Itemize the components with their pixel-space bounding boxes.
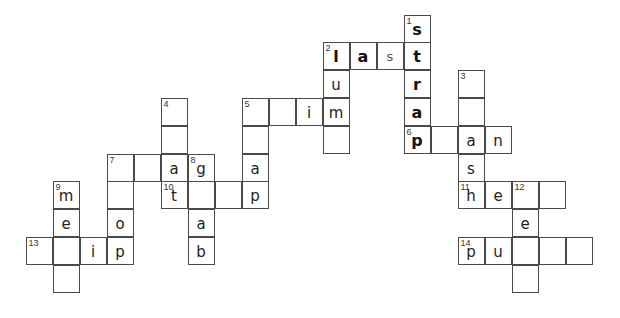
cell-letter: e: [54, 214, 79, 234]
crossword-cell[interactable]: [269, 98, 296, 126]
crossword-cell[interactable]: [53, 265, 80, 293]
crossword-cell[interactable]: a: [404, 98, 431, 126]
cell-letter: i: [81, 242, 106, 262]
cell-letter: b: [189, 242, 214, 262]
crossword-cell[interactable]: r: [404, 70, 431, 98]
crossword-cell[interactable]: 7: [107, 154, 134, 182]
clue-number: 13: [29, 238, 39, 248]
crossword-cell[interactable]: [161, 126, 188, 154]
clue-number: 7: [110, 155, 115, 165]
cell-letter: e: [486, 186, 511, 206]
cell-letter: l: [324, 47, 349, 67]
cell-letter: u: [324, 75, 349, 95]
crossword-cell[interactable]: 13: [26, 237, 53, 265]
crossword-cell[interactable]: a: [161, 154, 188, 182]
crossword-cell[interactable]: [566, 237, 593, 265]
crossword-cell[interactable]: i: [296, 98, 323, 126]
crossword-cell[interactable]: a: [350, 42, 377, 70]
crossword-cell[interactable]: e: [485, 181, 512, 209]
crossword-cell[interactable]: o: [107, 209, 134, 237]
cell-letter: p: [459, 242, 484, 262]
crossword-cell[interactable]: e: [512, 209, 539, 237]
cell-letter: s: [459, 159, 484, 179]
crossword-cell[interactable]: 2l: [323, 42, 350, 70]
crossword-cell[interactable]: 9m: [53, 181, 80, 209]
crossword-cell[interactable]: 5: [242, 98, 269, 126]
clue-number: 12: [515, 182, 525, 192]
cell-letter: a: [351, 47, 376, 67]
crossword-grid: 1s2lastur345ima6pan7a8gas9m10tp11he12eoa…: [0, 0, 620, 318]
crossword-cell[interactable]: [458, 98, 485, 126]
cell-letter: h: [459, 186, 484, 206]
cell-letter: a: [459, 131, 484, 151]
cell-letter: s: [378, 47, 403, 67]
crossword-cell[interactable]: m: [323, 98, 350, 126]
cell-letter: p: [405, 131, 430, 151]
crossword-cell[interactable]: [53, 237, 80, 265]
cell-letter: m: [54, 186, 79, 206]
cell-letter: r: [405, 75, 430, 95]
cell-letter: t: [162, 186, 187, 206]
cell-letter: a: [162, 159, 187, 179]
cell-letter: g: [189, 159, 214, 179]
crossword-cell[interactable]: a: [458, 126, 485, 154]
crossword-cell[interactable]: [188, 181, 215, 209]
crossword-cell[interactable]: [539, 237, 566, 265]
crossword-cell[interactable]: 11h: [458, 181, 485, 209]
cell-letter: p: [108, 242, 133, 262]
clue-number: 4: [164, 99, 169, 109]
cell-letter: u: [486, 242, 511, 262]
crossword-cell[interactable]: [512, 237, 539, 265]
crossword-cell[interactable]: [431, 126, 458, 154]
crossword-cell[interactable]: s: [377, 42, 404, 70]
cell-letter: i: [297, 103, 322, 123]
cell-letter: s: [405, 20, 430, 40]
crossword-cell[interactable]: 1s: [404, 15, 431, 43]
cell-letter: a: [189, 214, 214, 234]
crossword-cell[interactable]: a: [242, 154, 269, 182]
crossword-cell[interactable]: [215, 181, 242, 209]
crossword-cell[interactable]: [134, 154, 161, 182]
crossword-cell[interactable]: [107, 181, 134, 209]
cell-letter: m: [324, 103, 349, 123]
crossword-cell[interactable]: b: [188, 237, 215, 265]
clue-number: 5: [245, 99, 250, 109]
crossword-cell[interactable]: [539, 181, 566, 209]
crossword-cell[interactable]: 3: [458, 70, 485, 98]
crossword-cell[interactable]: n: [485, 126, 512, 154]
crossword-cell[interactable]: 14p: [458, 237, 485, 265]
crossword-cell[interactable]: 4: [161, 98, 188, 126]
crossword-cell[interactable]: 10t: [161, 181, 188, 209]
cell-letter: a: [405, 103, 430, 123]
crossword-cell[interactable]: p: [107, 237, 134, 265]
crossword-cell[interactable]: [512, 265, 539, 293]
cell-letter: p: [243, 186, 268, 206]
cell-letter: a: [243, 159, 268, 179]
crossword-cell[interactable]: 12: [512, 181, 539, 209]
crossword-cell[interactable]: e: [53, 209, 80, 237]
crossword-cell[interactable]: [323, 126, 350, 154]
crossword-cell[interactable]: p: [242, 181, 269, 209]
crossword-cell[interactable]: u: [485, 237, 512, 265]
crossword-cell[interactable]: t: [404, 42, 431, 70]
cell-letter: t: [405, 47, 430, 67]
cell-letter: o: [108, 214, 133, 234]
crossword-cell[interactable]: 6p: [404, 126, 431, 154]
crossword-cell[interactable]: a: [188, 209, 215, 237]
crossword-cell[interactable]: [242, 126, 269, 154]
crossword-cell[interactable]: u: [323, 70, 350, 98]
crossword-cell[interactable]: 8g: [188, 154, 215, 182]
crossword-cell[interactable]: i: [80, 237, 107, 265]
crossword-cell[interactable]: s: [458, 154, 485, 182]
cell-letter: n: [486, 131, 511, 151]
clue-number: 3: [461, 71, 466, 81]
cell-letter: e: [513, 214, 538, 234]
